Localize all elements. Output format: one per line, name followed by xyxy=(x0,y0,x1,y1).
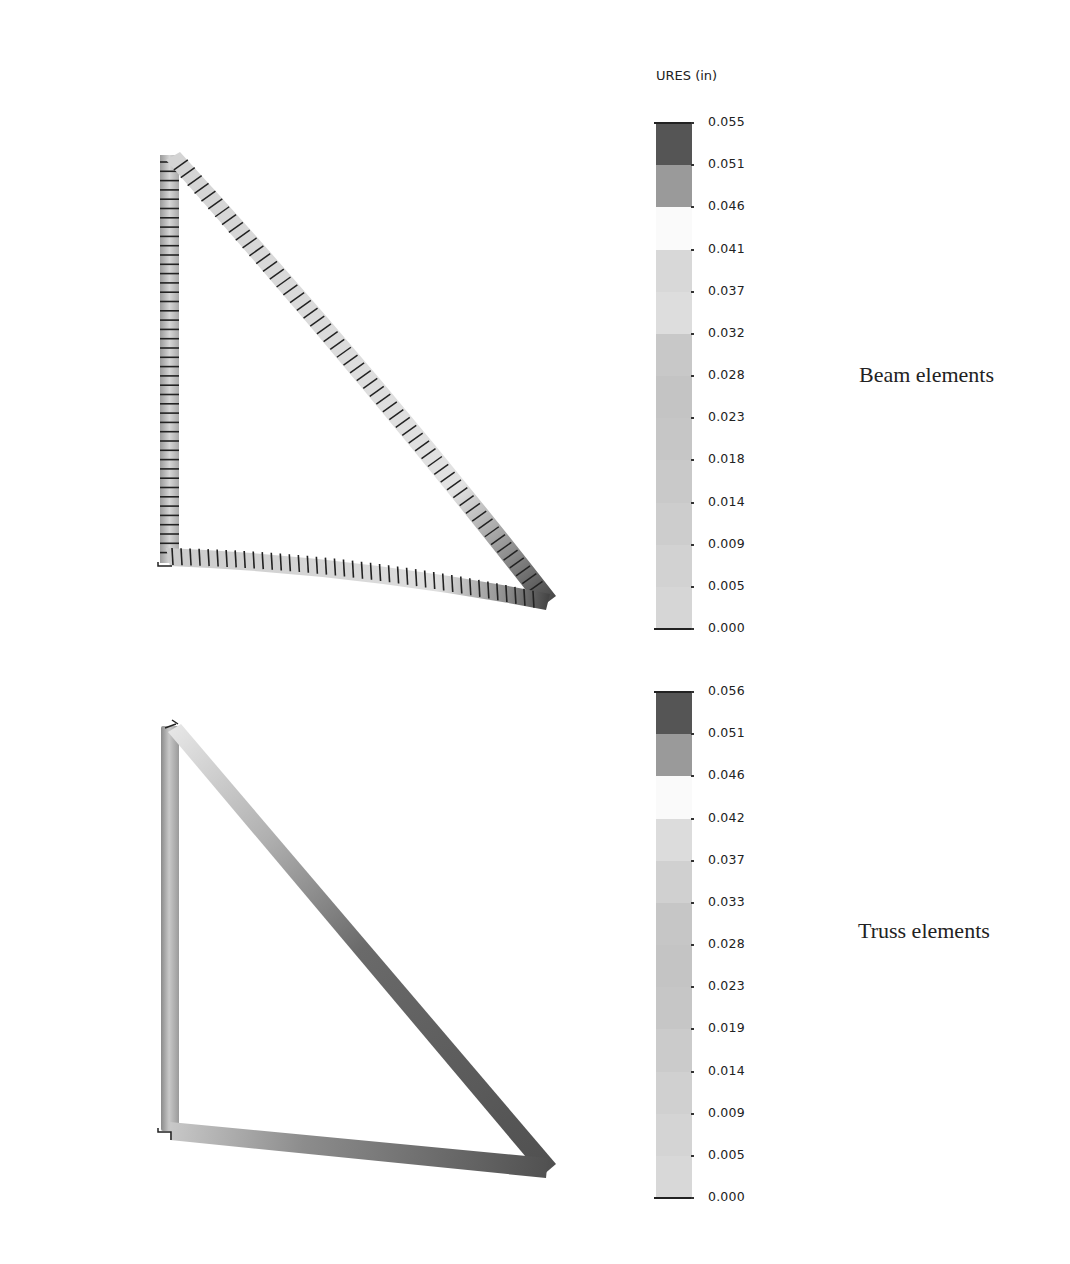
truss-caption: Truss elements xyxy=(858,918,990,944)
legend-tick-label: 0.028 xyxy=(708,936,745,951)
legend-tick-label: 0.019 xyxy=(708,1020,745,1035)
beam-vertical-member xyxy=(160,155,179,563)
legend-color-band xyxy=(656,587,692,630)
legend-tick-mark xyxy=(691,986,694,988)
legend-tick-label: 0.046 xyxy=(708,767,745,782)
legend-color-band xyxy=(656,207,692,250)
legend-color-band xyxy=(656,165,692,208)
legend-bottom-cap xyxy=(654,1197,694,1199)
legend-color-band xyxy=(656,250,692,293)
legend-tick-label: 0.033 xyxy=(708,894,745,909)
legend-color-band xyxy=(656,123,692,166)
legend-tick-mark xyxy=(691,164,694,166)
legend-color-band xyxy=(656,734,692,777)
legend-color-band xyxy=(656,545,692,588)
legend-tick-mark xyxy=(691,1197,694,1199)
legend-tick-mark xyxy=(691,944,694,946)
legend-tick-label: 0.046 xyxy=(708,198,745,213)
legend-tick-mark xyxy=(691,691,694,693)
legend-color-band xyxy=(656,945,692,988)
truss-color-legend xyxy=(656,692,692,1198)
legend-tick-mark xyxy=(691,417,694,419)
legend-tick-label: 0.014 xyxy=(708,494,745,509)
legend-tick-mark xyxy=(691,860,694,862)
legend-color-band xyxy=(656,987,692,1030)
legend-tick-mark xyxy=(691,902,694,904)
truss-bottom-member xyxy=(170,1122,548,1178)
legend-tick-label: 0.037 xyxy=(708,283,745,298)
truss-elements-panel: 0.0560.0510.0460.0420.0370.0330.0280.023… xyxy=(0,640,1070,1264)
beam-elements-panel: URES (in) 0.0550.0510.0460.0410.0370.032… xyxy=(0,0,1070,640)
legend-tick-mark xyxy=(691,733,694,735)
legend-tick-mark xyxy=(691,544,694,546)
legend-color-band xyxy=(656,292,692,335)
legend-tick-mark xyxy=(691,1071,694,1073)
beam-bottom-member xyxy=(166,548,550,610)
legend-tick-label: 0.028 xyxy=(708,367,745,382)
legend-tick-mark xyxy=(691,459,694,461)
beam-color-legend xyxy=(656,123,692,629)
legend-color-band xyxy=(656,334,692,377)
legend-tick-mark xyxy=(691,586,694,588)
legend-color-band xyxy=(656,460,692,503)
legend-tick-label: 0.037 xyxy=(708,852,745,867)
legend-tick-mark xyxy=(691,1028,694,1030)
legend-color-band xyxy=(656,692,692,735)
legend-tick-mark xyxy=(691,122,694,124)
legend-color-band xyxy=(656,1072,692,1115)
legend-tick-mark xyxy=(691,628,694,630)
legend-color-band xyxy=(656,819,692,862)
legend-tick-label: 0.000 xyxy=(708,620,745,635)
legend-tick-label: 0.009 xyxy=(708,536,745,551)
legend-tick-mark xyxy=(691,502,694,504)
legend-top-cap xyxy=(654,122,694,124)
legend-color-band xyxy=(656,376,692,419)
legend-tick-mark xyxy=(691,249,694,251)
legend-color-band xyxy=(656,503,692,546)
legend-tick-label: 0.056 xyxy=(708,683,745,698)
legend-tick-mark xyxy=(691,818,694,820)
legend-tick-label: 0.005 xyxy=(708,1147,745,1162)
legend-tick-label: 0.009 xyxy=(708,1105,745,1120)
legend-tick-label: 0.018 xyxy=(708,451,745,466)
legend-tick-mark xyxy=(691,206,694,208)
beam-structure-plot xyxy=(0,0,640,640)
legend-tick-label: 0.032 xyxy=(708,325,745,340)
legend-tick-label: 0.023 xyxy=(708,409,745,424)
legend-tick-mark xyxy=(691,1155,694,1157)
legend-tick-label: 0.051 xyxy=(708,156,745,171)
legend-tick-label: 0.023 xyxy=(708,978,745,993)
legend-color-band xyxy=(656,1114,692,1157)
legend-tick-mark xyxy=(691,1113,694,1115)
legend-tick-label: 0.051 xyxy=(708,725,745,740)
legend-tick-mark xyxy=(691,291,694,293)
legend-tick-label: 0.005 xyxy=(708,578,745,593)
legend-title: URES (in) xyxy=(656,68,717,83)
truss-diagonal-member xyxy=(168,724,556,1176)
legend-tick-label: 0.014 xyxy=(708,1063,745,1078)
legend-color-band xyxy=(656,1156,692,1199)
legend-tick-mark xyxy=(691,375,694,377)
truss-structure-plot xyxy=(0,640,640,1264)
legend-bottom-cap xyxy=(654,628,694,630)
legend-tick-label: 0.055 xyxy=(708,114,745,129)
legend-color-band xyxy=(656,776,692,819)
legend-top-cap xyxy=(654,691,694,693)
legend-color-band xyxy=(656,903,692,946)
legend-tick-label: 0.000 xyxy=(708,1189,745,1204)
legend-tick-mark xyxy=(691,333,694,335)
legend-tick-mark xyxy=(691,775,694,777)
legend-color-band xyxy=(656,418,692,461)
beam-caption: Beam elements xyxy=(859,362,994,388)
legend-color-band xyxy=(656,861,692,904)
truss-vertical-member xyxy=(161,726,179,1131)
legend-tick-label: 0.042 xyxy=(708,810,745,825)
legend-tick-label: 0.041 xyxy=(708,241,745,256)
legend-color-band xyxy=(656,1029,692,1072)
